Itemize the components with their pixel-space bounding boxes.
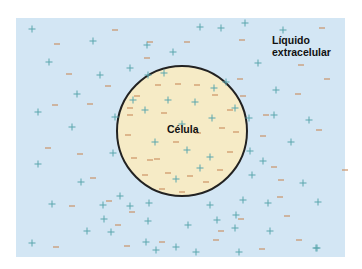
positive-ion-icon <box>143 239 150 246</box>
positive-ion-icon <box>255 60 262 67</box>
positive-ion-icon <box>90 38 97 45</box>
positive-ion-icon <box>117 193 124 200</box>
positive-ion-icon <box>242 20 249 27</box>
positive-ion-icon <box>146 200 153 207</box>
positive-ion-icon <box>247 148 254 155</box>
positive-ion-icon <box>127 65 134 72</box>
positive-ion-icon <box>185 222 192 229</box>
positive-ion-icon <box>214 217 221 224</box>
positive-ion-icon <box>46 59 53 66</box>
positive-ion-icon <box>273 87 280 94</box>
positive-ion-icon <box>193 249 200 256</box>
positive-ion-icon <box>207 202 214 209</box>
positive-ion-icon <box>110 150 117 157</box>
positive-ion-icon <box>288 139 295 146</box>
positive-ion-icon <box>127 203 134 210</box>
positive-ion-icon <box>35 109 42 116</box>
positive-ion-icon <box>265 200 272 207</box>
positive-ion-icon <box>197 24 204 31</box>
positive-ion-icon <box>260 158 267 165</box>
positive-ion-icon <box>173 244 180 251</box>
extracellular-label-line2: extracelular <box>272 46 331 58</box>
positive-ion-icon <box>78 179 85 186</box>
positive-ion-icon <box>29 240 36 247</box>
positive-ion-icon <box>49 201 56 208</box>
positive-ion-icon <box>69 124 76 131</box>
positive-ion-icon <box>145 218 152 225</box>
positive-ion-icon <box>267 228 274 235</box>
positive-ion-icon <box>249 172 256 179</box>
positive-ion-icon <box>280 27 287 34</box>
positive-ion-icon <box>240 197 247 204</box>
cell-label: Célula <box>167 123 199 135</box>
positive-ion-icon <box>97 72 104 79</box>
positive-ion-icon <box>218 25 225 32</box>
positive-ion-icon <box>108 229 115 236</box>
extracellular-label-line1: Líquido <box>272 34 331 46</box>
positive-ion-icon <box>236 249 243 256</box>
positive-ion-icon <box>315 199 322 206</box>
positive-ion-icon <box>232 225 239 232</box>
positive-ion-icon <box>35 161 42 168</box>
positive-ion-icon <box>84 228 91 235</box>
positive-ion-icon <box>306 117 313 124</box>
positive-ion-icon <box>271 112 278 119</box>
positive-ion-icon <box>300 180 307 187</box>
positive-ion-icon <box>233 212 240 219</box>
positive-ion-icon <box>100 202 107 209</box>
positive-ion-icon <box>170 49 177 56</box>
positive-ion-icon <box>74 91 81 98</box>
positive-ion-icon <box>29 26 36 33</box>
extracellular-fluid-label: Líquido extracelular <box>272 34 331 58</box>
positive-ion-icon <box>313 245 320 252</box>
positive-ion-icon <box>153 247 160 254</box>
positive-ion-icon <box>101 216 108 223</box>
